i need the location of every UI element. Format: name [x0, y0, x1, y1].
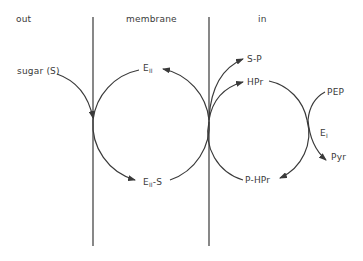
e2s-to-e2-arc [163, 69, 209, 180]
pep-entry-arc [308, 92, 325, 120]
hpr-to-e1-arc [269, 81, 307, 120]
enzyme-e2-label: EII [143, 64, 153, 74]
sp-release-arrow [209, 59, 243, 118]
region-label-membrane: membrane [126, 15, 177, 24]
enzyme-e2s-suffix: -S [153, 177, 162, 187]
e2-to-e2s-arc [93, 70, 139, 180]
region-label-out: out [16, 15, 31, 24]
enzyme-e2-sub: II [149, 67, 153, 74]
pyruvate-label: Pyr [331, 153, 346, 162]
sugar-label: sugar (S) [17, 67, 60, 76]
e1-to-phpr-arc [280, 120, 309, 178]
enzyme-e1-sub: I [326, 132, 328, 139]
phpr-to-junction-arc [208, 122, 243, 180]
enzyme-e1-label: EI [320, 129, 328, 139]
pep-label: PEP [327, 88, 344, 97]
diagram-graphics [0, 0, 363, 261]
sugar-entry-arrow [57, 74, 93, 118]
enzyme-e2s-label: EII-S [143, 178, 162, 188]
pts-diagram: out membrane in sugar (S) EII EII-S S-P … [0, 0, 363, 261]
sugar-phosphate-label: S-P [247, 55, 262, 64]
phospho-hpr-label: P-HPr [245, 176, 270, 185]
region-label-in: in [258, 15, 267, 24]
hpr-label: HPr [247, 78, 263, 87]
pyr-release-arrow [308, 120, 326, 160]
hpr-arrow [209, 82, 243, 120]
